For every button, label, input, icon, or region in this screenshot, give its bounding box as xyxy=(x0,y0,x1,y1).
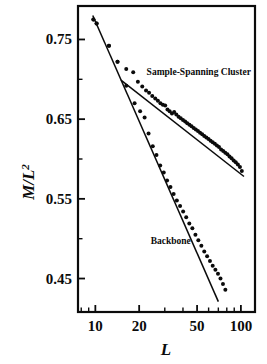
data-point xyxy=(140,84,144,88)
y-axis-tick-labels: 0.450.550.650.75 xyxy=(46,31,72,286)
data-point xyxy=(196,238,200,242)
data-point xyxy=(116,60,120,64)
data-point xyxy=(163,104,167,108)
annotation-sample-spanning-cluster: Sample-Spanning Cluster xyxy=(147,67,252,77)
data-point xyxy=(136,80,140,84)
y-tick-label-0.45: 0.45 xyxy=(46,271,72,287)
y-axis-title: M/L2 xyxy=(19,164,38,201)
data-point xyxy=(131,70,135,74)
fit-line-backbone xyxy=(93,16,219,302)
x-tick-label-50: 50 xyxy=(190,318,205,334)
y-tick-label-0.75: 0.75 xyxy=(46,31,72,47)
data-point xyxy=(172,192,176,196)
x-axis-tick-labels: 102050100 xyxy=(88,318,252,334)
data-point xyxy=(193,233,197,237)
y-tick-label-0.65: 0.65 xyxy=(46,111,72,127)
data-point xyxy=(240,169,244,173)
data-point xyxy=(165,179,169,183)
data-point xyxy=(143,116,147,120)
data-points-group xyxy=(91,18,243,292)
data-point xyxy=(221,282,225,286)
figure-container: 0.450.550.650.75 102050100 Sample-Spanni… xyxy=(0,0,267,364)
data-point xyxy=(133,101,137,105)
data-point xyxy=(178,204,182,208)
data-point xyxy=(151,144,155,148)
data-point xyxy=(124,84,128,88)
data-point xyxy=(154,153,158,157)
data-point xyxy=(202,249,206,253)
x-tick-label-20: 20 xyxy=(132,318,147,334)
data-point xyxy=(124,67,128,71)
data-point xyxy=(91,18,95,22)
scatter-plot: 0.450.550.650.75 102050100 Sample-Spanni… xyxy=(0,0,267,364)
data-point xyxy=(175,198,179,202)
data-point xyxy=(205,254,209,258)
data-point xyxy=(181,210,185,214)
data-point xyxy=(187,222,191,226)
data-point xyxy=(213,268,217,272)
series-sample-spanning-cluster xyxy=(91,18,243,173)
data-point xyxy=(147,132,151,136)
data-point xyxy=(184,215,188,219)
x-tick-label-100: 100 xyxy=(230,318,253,334)
x-tick-label-10: 10 xyxy=(88,318,103,334)
svg-text:M/L2: M/L2 xyxy=(19,164,38,201)
series-annotations: Sample-Spanning ClusterBackbone xyxy=(147,67,252,246)
data-point xyxy=(211,264,215,268)
data-point xyxy=(162,171,166,175)
plot-frame xyxy=(78,6,255,312)
fit-line-sample-spanning-cluster xyxy=(121,80,244,176)
x-axis-title: L xyxy=(160,340,171,359)
data-point xyxy=(218,277,222,281)
data-point xyxy=(199,244,203,248)
fit-lines-group xyxy=(93,16,244,302)
data-point xyxy=(147,91,151,95)
data-point xyxy=(223,288,227,292)
data-point xyxy=(158,163,162,167)
data-point xyxy=(138,109,142,113)
data-point xyxy=(190,226,194,230)
data-point xyxy=(107,44,111,48)
annotation-backbone: Backbone xyxy=(151,236,191,246)
y-tick-label-0.55: 0.55 xyxy=(46,191,72,207)
data-point xyxy=(95,22,99,26)
data-point xyxy=(216,272,220,276)
data-point xyxy=(208,259,212,263)
data-point xyxy=(238,165,242,169)
data-point xyxy=(168,185,172,189)
